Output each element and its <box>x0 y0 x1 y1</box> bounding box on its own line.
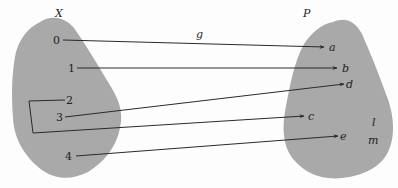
mapping-arrow-0-a <box>63 40 324 47</box>
codomain-set-blob <box>284 20 393 179</box>
codomain-element-l: l <box>372 116 376 129</box>
diagram-svg: X P g 0 1 2 3 4 a b d c e l m <box>0 0 398 188</box>
codomain-element-a: a <box>329 41 336 54</box>
domain-set-label: X <box>54 7 64 20</box>
function-label: g <box>196 28 203 41</box>
domain-element-1: 1 <box>68 62 75 75</box>
codomain-element-e: e <box>340 130 347 143</box>
codomain-element-b: b <box>342 62 349 75</box>
codomain-element-d: d <box>346 78 353 91</box>
codomain-element-c: c <box>308 110 314 123</box>
domain-element-4: 4 <box>65 150 72 163</box>
domain-element-0: 0 <box>53 34 60 47</box>
codomain-set-label: P <box>302 7 311 20</box>
function-mapping-diagram: X P g 0 1 2 3 4 a b d c e l m <box>0 0 398 188</box>
domain-element-2: 2 <box>66 94 73 107</box>
domain-element-3: 3 <box>56 111 63 124</box>
codomain-element-m: m <box>368 134 378 147</box>
